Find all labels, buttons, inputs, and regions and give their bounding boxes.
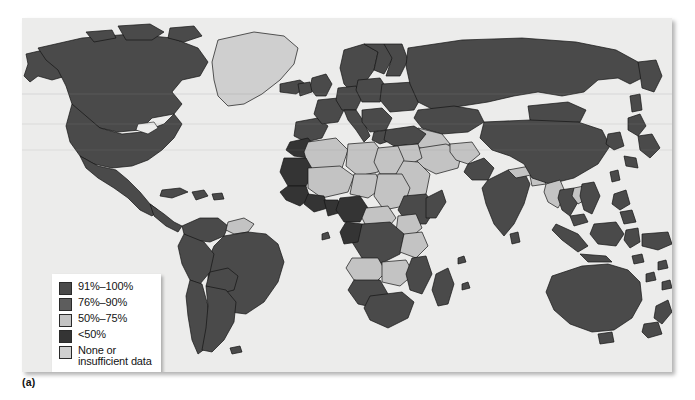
figure-root: .c{stroke:#141414;stroke-width:0.7;strok…	[0, 0, 695, 400]
legend-label-under-50: <50%	[78, 329, 106, 340]
world-map-plate: .c{stroke:#141414;stroke-width:0.7;strok…	[22, 18, 672, 372]
panel-label-a: (a)	[22, 376, 35, 388]
legend-item-50-75: 50%–75%	[59, 313, 155, 327]
legend-item-76-90: 76%–90%	[59, 297, 155, 311]
swatch-91-100	[59, 282, 72, 295]
swatch-50-75	[59, 314, 72, 327]
swatch-none	[59, 346, 72, 359]
legend-item-under-50: <50%	[59, 329, 155, 343]
legend-item-91-100: 91%–100%	[59, 281, 155, 295]
legend-label-none: None or insufficient data	[78, 345, 152, 367]
legend-item-none: None or insufficient data	[59, 345, 155, 367]
legend-label-76-90: 76%–90%	[78, 297, 127, 308]
legend-label-91-100: 91%–100%	[78, 281, 133, 292]
swatch-under-50	[59, 330, 72, 343]
legend-label-50-75: 50%–75%	[78, 313, 127, 324]
swatch-76-90	[59, 298, 72, 311]
map-legend: 91%–100% 76%–90% 50%–75% <50% None or in…	[52, 274, 161, 372]
